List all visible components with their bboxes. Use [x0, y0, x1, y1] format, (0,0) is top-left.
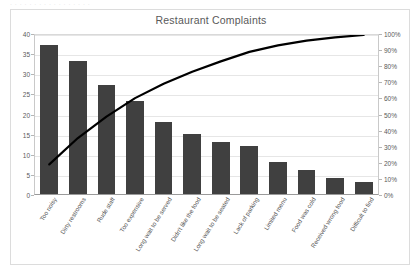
top-text-fragment-label: · · · · · · · · · · · · · · · · · [0, 0, 417, 9]
bar [240, 146, 258, 194]
x-axis-category-label-text: Rude staff [95, 196, 116, 224]
chart-screenshot: · · · · · · · · · · · · · · · · · Restau… [0, 0, 417, 268]
bar [298, 170, 316, 194]
y-axis-right-tick [379, 131, 382, 132]
y-axis-right-tick [379, 115, 382, 116]
y-axis-left-tick-label: 5 [26, 171, 30, 178]
bar-slot [64, 35, 93, 194]
y-axis-left-tick-label: 15 [23, 131, 30, 138]
bar-slot [35, 35, 64, 194]
y-axis-right-tick-label: 30% [384, 143, 397, 150]
y-axis-right-tick-label: 10% [384, 175, 397, 182]
chart-frame: Restaurant Complaints 0510152025303540 0… [10, 9, 410, 265]
bar-slot [121, 35, 150, 194]
bar-slot [149, 35, 178, 194]
y-axis-right-tick [379, 147, 382, 148]
y-axis-left-tick [31, 115, 34, 116]
y-axis-right-tick-label: 100% [384, 31, 401, 38]
y-axis-right-tick [379, 98, 382, 99]
bar [326, 178, 344, 194]
y-axis-left-tick-label: 10 [23, 151, 30, 158]
x-axis-category-label: Dirty restrooms [59, 196, 87, 235]
y-axis-right-tick-label: 60% [384, 95, 397, 102]
x-axis-category-label: Limited menu [263, 196, 289, 231]
y-axis-right-tick [379, 179, 382, 180]
x-axis-category-label-text: Food was cold [290, 196, 317, 234]
y-axis-right: 0%10%20%30%40%50%60%70%80%90%100% [381, 34, 417, 195]
y-axis-right-tick-label: 40% [384, 127, 397, 134]
y-axis-right-tick-label: 50% [384, 111, 397, 118]
x-axis-category-label-text: Lack of parking [231, 196, 259, 235]
y-axis-left: 0510152025303540 [11, 34, 32, 195]
y-axis-right-tick [379, 50, 382, 51]
y-axis-right-tick-label: 80% [384, 63, 397, 70]
y-axis-left-tick [31, 34, 34, 35]
x-axis-category-label: Too expensive [118, 196, 145, 233]
x-axis-category-label: Difficult to find [348, 196, 374, 233]
y-axis-left-tick [31, 195, 34, 196]
y-axis-left-tick [31, 54, 34, 55]
bar-slot [292, 35, 321, 194]
bar-slot [321, 35, 350, 194]
y-axis-left-tick-label: 30 [23, 71, 30, 78]
y-axis-right-tick [379, 34, 382, 35]
y-axis-right-tick [379, 195, 382, 196]
y-axis-right-tick-label: 20% [384, 159, 397, 166]
bar-slot [235, 35, 264, 194]
y-axis-right-tick-label: 70% [384, 79, 397, 86]
x-axis-category-label: Too noisy [39, 196, 59, 222]
y-axis-right-tick [379, 66, 382, 67]
x-axis-category-label-text: Difficult to find [348, 196, 374, 233]
y-axis-left-tick [31, 155, 34, 156]
x-axis-category-label: Lack of parking [231, 196, 259, 235]
bar-slot [92, 35, 121, 194]
x-axis-category-label: Food was cold [290, 196, 317, 234]
y-axis-left-tick-label: 35 [23, 51, 30, 58]
x-axis-category-label-text: Too noisy [39, 196, 59, 222]
y-axis-left-tick [31, 94, 34, 95]
bar-slot [178, 35, 207, 194]
y-axis-left-tick-label: 0 [26, 192, 30, 199]
y-axis-right-tick-label: 0% [384, 192, 393, 199]
x-axis-category-label: Received wrong food [309, 196, 346, 249]
chart-title: Restaurant Complaints [11, 14, 411, 26]
bar [98, 85, 116, 194]
bar-series [35, 35, 378, 194]
bar [183, 134, 201, 194]
x-axis-category-label-text: Dirty restrooms [59, 196, 87, 235]
x-axis-category-label: Didn't like the food [169, 196, 202, 243]
bar-slot [349, 35, 378, 194]
y-axis-left-tick [31, 74, 34, 75]
x-axis-category-label: Rude staff [95, 196, 116, 224]
y-axis-left-tick-label: 25 [23, 91, 30, 98]
bar [212, 142, 230, 194]
bar [155, 122, 173, 194]
bar [126, 101, 144, 194]
y-axis-left-tick-label: 20 [23, 111, 30, 118]
y-axis-left-tick [31, 175, 34, 176]
x-axis-category-labels: Too noisyDirty restroomsRude staffToo ex… [34, 196, 379, 266]
bar [269, 162, 287, 194]
x-axis-category-label-text: Too expensive [118, 196, 145, 233]
y-axis-right-tick-label: 90% [384, 47, 397, 54]
x-axis-category-label-text: Received wrong food [309, 196, 346, 249]
y-axis-right-tick [379, 163, 382, 164]
y-axis-left-tick [31, 135, 34, 136]
bar-slot [206, 35, 235, 194]
bar-slot [264, 35, 293, 194]
x-axis-category-label-text: Didn't like the food [169, 196, 202, 243]
bar [355, 182, 373, 194]
x-axis-category-label-text: Limited menu [263, 196, 289, 231]
bar [69, 61, 87, 194]
bar [40, 45, 58, 194]
plot-area [34, 34, 379, 195]
y-axis-right-tick [379, 82, 382, 83]
page-top-text-fragment: · · · · · · · · · · · · · · · · · [0, 0, 417, 9]
y-axis-left-tick-label: 40 [23, 31, 30, 38]
